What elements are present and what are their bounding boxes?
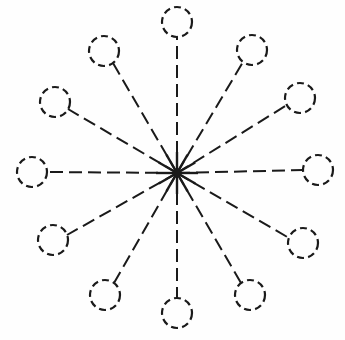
hub-core (173, 169, 182, 178)
diagram-canvas (0, 0, 345, 340)
star-topology-figure (0, 0, 345, 340)
